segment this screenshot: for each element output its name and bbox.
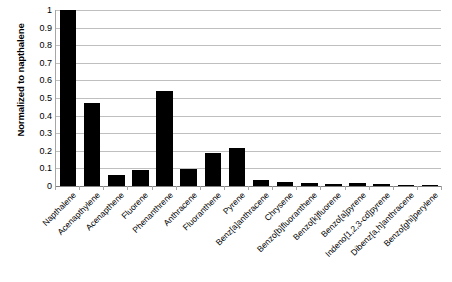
bar-chart: Normalized to napthalene 10.90.80.70.60.… bbox=[0, 0, 452, 282]
bar-slot bbox=[321, 10, 345, 186]
x-axis-tick-labels: NapthaleneAcenapthyleneAcenaptheneFluore… bbox=[55, 190, 452, 282]
bar-slot bbox=[346, 10, 370, 186]
bar-slot bbox=[104, 10, 128, 186]
bar[interactable] bbox=[205, 153, 221, 186]
bar-slot bbox=[80, 10, 104, 186]
bar-slot bbox=[394, 10, 418, 186]
y-tick-label: 0.2 bbox=[26, 146, 52, 155]
y-tick-label: 0 bbox=[26, 182, 52, 191]
bar[interactable] bbox=[180, 169, 196, 186]
bar-slot bbox=[418, 10, 442, 186]
bar-slot bbox=[177, 10, 201, 186]
y-tick-label: 0.9 bbox=[26, 23, 52, 32]
bar-slot bbox=[273, 10, 297, 186]
bar-slot bbox=[201, 10, 225, 186]
y-tick-label: 0.6 bbox=[26, 76, 52, 85]
bar-slot bbox=[249, 10, 273, 186]
bar[interactable] bbox=[108, 175, 124, 186]
bar-slot bbox=[153, 10, 177, 186]
bars-layer bbox=[56, 10, 441, 186]
y-tick-label: 1 bbox=[26, 6, 52, 15]
bar-slot bbox=[225, 10, 249, 186]
bar[interactable] bbox=[84, 103, 100, 186]
bar[interactable] bbox=[156, 91, 172, 186]
bar-slot bbox=[297, 10, 321, 186]
plot-area bbox=[55, 10, 441, 186]
y-tick-label: 0.3 bbox=[26, 129, 52, 138]
y-tick-label: 0.7 bbox=[26, 58, 52, 67]
y-tick-label: 0.5 bbox=[26, 94, 52, 103]
bar[interactable] bbox=[132, 170, 148, 186]
y-tick-label: 0.1 bbox=[26, 164, 52, 173]
bar-slot bbox=[128, 10, 152, 186]
y-axis-tick-labels: 10.90.80.70.60.50.40.30.20.10 bbox=[26, 10, 52, 186]
bar[interactable] bbox=[229, 148, 245, 186]
y-tick-label: 0.4 bbox=[26, 111, 52, 120]
bar-slot bbox=[56, 10, 80, 186]
bar-slot bbox=[370, 10, 394, 186]
bar[interactable] bbox=[60, 10, 76, 186]
y-tick-label: 0.8 bbox=[26, 41, 52, 50]
